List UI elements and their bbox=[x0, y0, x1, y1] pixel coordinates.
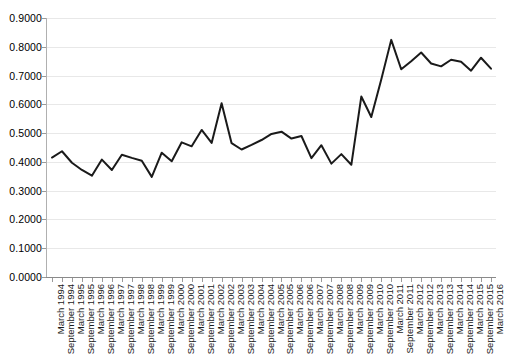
x-axis-tick-mark bbox=[232, 278, 233, 282]
y-axis-tick-label: 0.8000 bbox=[9, 41, 42, 53]
y-axis-tick-label: 0.9000 bbox=[9, 12, 42, 24]
x-axis-tick-mark bbox=[192, 278, 193, 282]
x-axis-tick-mark bbox=[481, 278, 482, 282]
x-axis-tick-mark bbox=[122, 278, 123, 282]
x-axis-tick-mark bbox=[212, 278, 213, 282]
x-axis-tick-mark bbox=[252, 278, 253, 282]
y-axis-label-group: 0.90000.80000.70000.60000.50000.40000.30… bbox=[0, 0, 42, 364]
x-axis-tick-mark bbox=[242, 278, 243, 282]
x-axis-tick-mark bbox=[72, 278, 73, 282]
y-axis-tick-mark bbox=[42, 104, 46, 105]
x-axis-tick-label: March 2016 bbox=[495, 284, 505, 334]
x-axis-tick-mark bbox=[262, 278, 263, 282]
x-axis-tick-mark bbox=[311, 278, 312, 282]
x-axis-tick-group bbox=[47, 278, 496, 283]
x-axis-tick-mark bbox=[172, 278, 173, 282]
x-axis-tick-mark bbox=[112, 278, 113, 282]
x-axis-tick-mark bbox=[341, 278, 342, 282]
y-axis-tick-mark bbox=[42, 133, 46, 134]
x-axis-tick-mark bbox=[351, 278, 352, 282]
x-axis-tick-mark bbox=[52, 278, 53, 282]
y-axis-tick-mark bbox=[42, 162, 46, 163]
x-axis-tick-mark bbox=[321, 278, 322, 282]
plot-area bbox=[47, 18, 496, 277]
x-axis-tick-mark bbox=[82, 278, 83, 282]
x-axis-tick-mark bbox=[421, 278, 422, 282]
y-axis-tick-label: 0.5000 bbox=[9, 127, 42, 139]
y-axis-tick-label: 0.1000 bbox=[9, 242, 42, 254]
y-axis-tick-mark bbox=[42, 191, 46, 192]
x-axis-label-group: March 1994September 1994March 1995Septem… bbox=[47, 284, 496, 364]
x-axis-tick-mark bbox=[461, 278, 462, 282]
x-axis-tick-mark bbox=[431, 278, 432, 282]
x-axis-tick-mark bbox=[441, 278, 442, 282]
data-series-svg bbox=[47, 18, 496, 277]
y-axis-tick-mark bbox=[42, 277, 46, 278]
x-axis-tick-mark bbox=[92, 278, 93, 282]
y-axis-tick-mark bbox=[42, 219, 46, 220]
y-axis-tick-mark bbox=[42, 18, 46, 19]
x-axis-tick-mark bbox=[62, 278, 63, 282]
y-axis-tick-mark bbox=[42, 248, 46, 249]
x-axis-tick-mark bbox=[162, 278, 163, 282]
x-axis-tick-mark bbox=[132, 278, 133, 282]
x-axis-tick-mark bbox=[222, 278, 223, 282]
x-axis-tick-mark bbox=[272, 278, 273, 282]
y-axis-tick-label: 0.6000 bbox=[9, 98, 42, 110]
x-axis-tick-mark bbox=[471, 278, 472, 282]
x-axis-tick-mark bbox=[291, 278, 292, 282]
x-axis-tick-mark bbox=[142, 278, 143, 282]
x-axis-tick-mark bbox=[451, 278, 452, 282]
x-axis-tick-mark bbox=[401, 278, 402, 282]
x-axis-tick-mark bbox=[491, 278, 492, 282]
y-axis-tick-label: 0.2000 bbox=[9, 213, 42, 225]
data-series-line bbox=[52, 40, 491, 177]
y-axis-tick-label: 0.7000 bbox=[9, 70, 42, 82]
x-axis-tick-mark bbox=[301, 278, 302, 282]
x-axis-tick-mark bbox=[102, 278, 103, 282]
y-axis-tick-mark bbox=[42, 47, 46, 48]
x-axis-tick-mark bbox=[411, 278, 412, 282]
x-axis-tick-mark bbox=[182, 278, 183, 282]
x-axis-tick-mark bbox=[361, 278, 362, 282]
y-axis-tick-label: 0.4000 bbox=[9, 156, 42, 168]
y-axis-tick-label: 0.0000 bbox=[9, 271, 42, 283]
y-axis-tick-label: 0.3000 bbox=[9, 185, 42, 197]
x-axis-tick-mark bbox=[381, 278, 382, 282]
y-axis-tick-mark bbox=[42, 76, 46, 77]
x-axis-tick-mark bbox=[152, 278, 153, 282]
x-axis-tick-mark bbox=[391, 278, 392, 282]
x-axis-tick-mark bbox=[202, 278, 203, 282]
x-axis-tick-mark bbox=[281, 278, 282, 282]
x-axis-tick-mark bbox=[371, 278, 372, 282]
x-axis-tick-mark bbox=[331, 278, 332, 282]
